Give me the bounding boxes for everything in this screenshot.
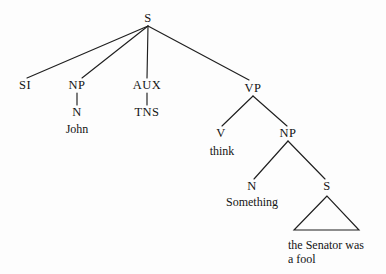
node-si: SI <box>19 79 31 92</box>
edge-s-to-vp <box>148 26 249 80</box>
terminal-embedded-clause-line2: a fool <box>288 252 316 267</box>
node-aux: AUX <box>133 79 161 92</box>
edge-vp-to-np-object <box>253 96 287 126</box>
node-v: V <box>216 127 225 140</box>
terminal-think: think <box>210 144 235 159</box>
terminal-john: John <box>66 122 89 137</box>
embedded-clause-triangle <box>294 196 359 230</box>
node-np-object: NP <box>280 127 297 140</box>
node-root-s: S <box>144 12 151 25</box>
terminal-embedded-clause-line1: the Senator was <box>288 238 364 253</box>
node-n-object: N <box>247 180 256 193</box>
node-n-subject: N <box>72 106 81 119</box>
tree-edges-svg <box>0 0 386 274</box>
node-tns: TNS <box>135 106 160 119</box>
syntax-tree-figure: S SI NP N John AUX TNS VP V think NP N S… <box>0 0 386 274</box>
node-np-subject: NP <box>69 79 86 92</box>
edge-np-object-to-n <box>254 141 288 179</box>
terminal-something: Something <box>226 195 278 210</box>
edge-s-to-si <box>27 26 148 78</box>
edge-s-to-np-subject <box>82 26 148 78</box>
edge-vp-to-v <box>222 96 253 126</box>
node-s-embedded: S <box>323 180 330 193</box>
node-vp: VP <box>245 82 262 95</box>
edge-np-object-to-s <box>288 141 325 179</box>
edge-s-to-aux <box>147 26 148 78</box>
